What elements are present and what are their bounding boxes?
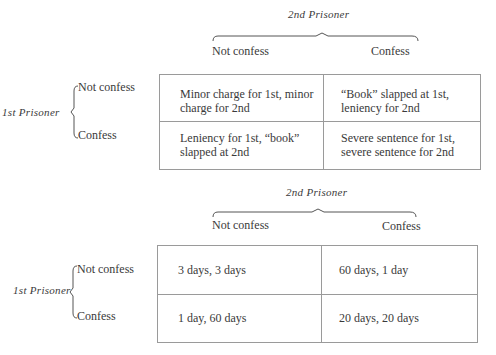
row-option-not-confess: Not confess bbox=[77, 262, 134, 276]
grid-column-divider bbox=[321, 245, 322, 343]
cell-c-nc: Leniency for 1st, “book” slapped at 2nd bbox=[180, 131, 299, 159]
cell-nc-nc: Minor charge for 1st, minor charge for 2… bbox=[180, 87, 313, 115]
row-player-label: 1st Prisoner bbox=[13, 284, 71, 296]
column-player-label: 2nd Prisoner bbox=[286, 186, 347, 198]
cell-c-c: Severe sentence for 1st, severe sentence… bbox=[341, 131, 455, 159]
cell-c-nc: 1 day, 60 days bbox=[178, 311, 247, 325]
cell-nc-c: 60 days, 1 day bbox=[339, 263, 408, 277]
column-brace-icon bbox=[212, 33, 420, 43]
column-player-label: 2nd Prisoner bbox=[288, 8, 349, 20]
cell-c-c: 20 days, 20 days bbox=[339, 311, 419, 325]
column-option-confess: Confess bbox=[382, 219, 421, 233]
cell-line: slapped at 2nd bbox=[180, 145, 299, 159]
column-option-not-confess: Not confess bbox=[212, 218, 269, 232]
row-option-confess: Confess bbox=[78, 128, 117, 142]
cell-line: leniency for 2nd bbox=[341, 101, 449, 115]
row-option-confess: Confess bbox=[77, 309, 116, 323]
cell-line: Severe sentence for 1st, bbox=[341, 131, 455, 145]
grid-row-divider bbox=[157, 294, 478, 295]
cell-line: “Book” slapped at 1st, bbox=[341, 87, 449, 101]
row-player-label: 1st Prisoner bbox=[2, 106, 60, 118]
cell-line: severe sentence for 2nd bbox=[341, 145, 455, 159]
row-option-not-confess: Not confess bbox=[78, 80, 135, 94]
grid-row-divider bbox=[159, 121, 481, 122]
column-option-not-confess: Not confess bbox=[212, 44, 269, 58]
cell-line: charge for 2nd bbox=[180, 101, 313, 115]
column-option-confess: Confess bbox=[371, 44, 410, 58]
cell-nc-nc: 3 days, 3 days bbox=[178, 263, 246, 277]
cell-line: Leniency for 1st, “book” bbox=[180, 131, 299, 145]
grid-column-divider bbox=[323, 74, 324, 170]
cell-line: Minor charge for 1st, minor bbox=[180, 87, 313, 101]
cell-nc-c: “Book” slapped at 1st, leniency for 2nd bbox=[341, 87, 449, 115]
